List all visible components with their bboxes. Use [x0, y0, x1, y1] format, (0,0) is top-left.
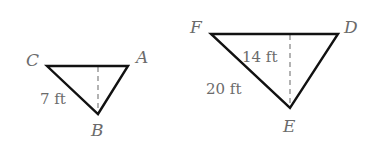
triangle-cab: C A B 7 ft	[26, 47, 148, 140]
vertex-label-b: B	[90, 120, 104, 140]
vertex-label-e: E	[282, 116, 296, 136]
measurement-cb-7ft: 7 ft	[40, 90, 66, 108]
triangle-fde: F D E 14 ft 20 ft	[189, 17, 358, 136]
vertex-label-c: C	[26, 50, 39, 70]
measurement-fe-20ft: 20 ft	[206, 80, 241, 98]
vertex-label-a: A	[134, 47, 148, 67]
measurement-altitude-14ft: 14 ft	[242, 48, 277, 66]
vertex-label-f: F	[189, 17, 203, 37]
similar-triangles-diagram: C A B 7 ft F D E 14 ft 20 ft	[0, 0, 373, 154]
vertex-label-d: D	[343, 17, 358, 37]
